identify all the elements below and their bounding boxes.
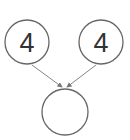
part-circle-left: 4 [5,20,49,64]
part-right-label: 4 [93,28,108,58]
whole-circle[interactable] [42,89,88,135]
number-bond-diagram: 4 4 [0,0,130,140]
arrow-left [32,65,62,87]
arrow-right [67,65,96,87]
part-left-label: 4 [19,28,34,58]
part-circle-right: 4 [79,20,123,64]
